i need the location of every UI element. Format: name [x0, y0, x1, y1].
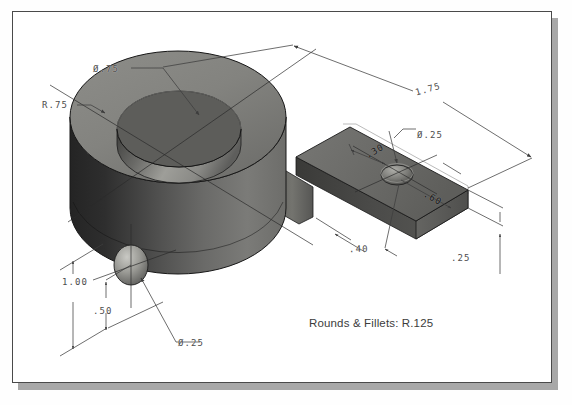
drawing-sheet-inner: Ø.75 R.75 1.75 Ø.25 .30 .60 .40 .25 1.00… [13, 12, 551, 382]
dimension-label-50: .50 [93, 306, 113, 316]
ext-25-low [468, 208, 503, 226]
dimension-label-dia-25-tab: Ø.25 [417, 130, 443, 140]
dimline-175-b [443, 102, 531, 157]
dimension-label-height-100: 1.00 [62, 277, 88, 287]
screenshot-canvas: Ø.75 R.75 1.75 Ø.25 .30 .60 .40 .25 1.00… [0, 0, 572, 405]
cylinder-boss [70, 51, 286, 285]
dimension-label-dia-25-side: Ø.25 [178, 338, 204, 348]
leader-dia25-tab [394, 129, 416, 138]
dimension-label-dia-75: Ø.75 [93, 64, 119, 74]
ext-25-high [468, 190, 503, 208]
dimension-label-thickness-25: .25 [451, 253, 471, 263]
ext-100-top [60, 244, 103, 270]
ext-40-left [316, 218, 351, 240]
ext-175-right [468, 158, 532, 188]
rounds-and-fillets-note: Rounds & Fillets: R.125 [309, 317, 433, 329]
dimension-label-r-75: R.75 [42, 100, 68, 110]
drawing-sheet: Ø.75 R.75 1.75 Ø.25 .30 .60 .40 .25 1.00… [12, 11, 552, 383]
ext-100-bot [60, 328, 107, 356]
dimension-label-40: .40 [349, 244, 369, 255]
ext-50-bot [108, 302, 163, 328]
dimline-40-b [385, 249, 397, 256]
dimline-175-a [294, 46, 413, 91]
ext-60 [443, 163, 461, 174]
